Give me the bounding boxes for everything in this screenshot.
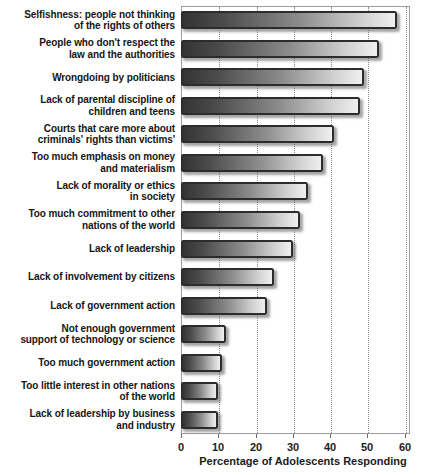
bar-row: Too much emphasis on money and materiali…: [0, 149, 425, 178]
axis-tick-label: 60: [390, 441, 420, 453]
axis-tick: [405, 434, 406, 438]
bar: [181, 325, 226, 343]
axis-tick-label: 20: [241, 441, 271, 453]
bar-row: Selfishness: people not thinking of the …: [0, 6, 425, 35]
bar-row: Lack of parental discipline of children …: [0, 92, 425, 121]
bar: [181, 68, 364, 86]
bar-row: Lack of morality or ethics in society: [0, 177, 425, 206]
category-label: Lack of morality or ethics in society: [0, 180, 181, 203]
axis-tick: [293, 434, 294, 438]
bar-row: Lack of leadership by business and indus…: [0, 405, 425, 434]
category-label: Too much emphasis on money and materiali…: [0, 151, 181, 174]
bar: [181, 40, 379, 58]
axis-tick: [218, 434, 219, 438]
category-label: Lack of leadership by business and indus…: [0, 408, 181, 431]
category-label: Lack of parental discipline of children …: [0, 94, 181, 117]
category-label: Lack of involvement by citizens: [0, 271, 181, 283]
bar: [181, 182, 308, 200]
bar-row: Too much government action: [0, 348, 425, 377]
x-axis-title: Percentage of Adolescents Responding: [189, 455, 417, 467]
bar-chart-figure: Selfishness: people not thinking of the …: [0, 0, 425, 475]
axis-tick: [181, 434, 182, 438]
axis-tick: [256, 434, 257, 438]
bar: [181, 411, 218, 429]
bar: [181, 11, 397, 29]
bar-rows: Selfishness: people not thinking of the …: [0, 6, 425, 434]
category-label: Not enough government support of technol…: [0, 323, 181, 346]
category-label: People who don't respect the law and the…: [0, 37, 181, 60]
bar: [181, 154, 323, 172]
category-label: Too much commitment to other nations of …: [0, 208, 181, 231]
bar: [181, 125, 334, 143]
bar: [181, 97, 360, 115]
axis-tick: [330, 434, 331, 438]
bar: [181, 268, 274, 286]
bar-row: People who don't respect the law and the…: [0, 35, 425, 64]
bar-row: Not enough government support of technol…: [0, 320, 425, 349]
axis-tick-label: 30: [278, 441, 308, 453]
category-label: Lack of leadership: [0, 243, 181, 255]
category-label: Lack of government action: [0, 300, 181, 312]
bar-row: Lack of leadership: [0, 234, 425, 263]
category-label: Too much government action: [0, 357, 181, 369]
category-label: Too little interest in other nations of …: [0, 380, 181, 403]
bar: [181, 297, 267, 315]
category-label: Wrongdoing by politicians: [0, 72, 181, 84]
bar: [181, 211, 300, 229]
bar: [181, 240, 293, 258]
bar: [181, 382, 218, 400]
bar-row: Lack of government action: [0, 291, 425, 320]
axis-tick-label: 50: [352, 441, 382, 453]
bar-row: Too much commitment to other nations of …: [0, 206, 425, 235]
bar-row: Lack of involvement by citizens: [0, 263, 425, 292]
axis-tick-label: 40: [315, 441, 345, 453]
bar-row: Courts that care more about criminals' r…: [0, 120, 425, 149]
category-label: Selfishness: people not thinking of the …: [0, 9, 181, 32]
axis-tick: [367, 434, 368, 438]
axis-tick-label: 0: [166, 441, 196, 453]
bar: [181, 354, 222, 372]
bar-row: Too little interest in other nations of …: [0, 377, 425, 406]
axis-tick-label: 10: [203, 441, 233, 453]
bar-row: Wrongdoing by politicians: [0, 63, 425, 92]
category-label: Courts that care more about criminals' r…: [0, 123, 181, 146]
